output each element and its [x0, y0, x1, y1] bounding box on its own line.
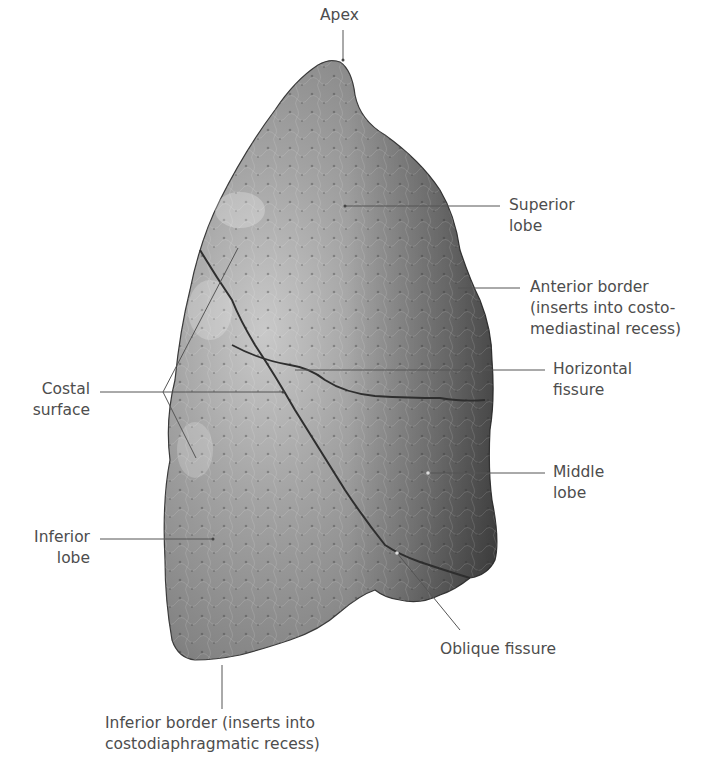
label-inferior-border: Inferior border (inserts into costodiaph… — [105, 713, 320, 755]
label-apex: Apex — [320, 5, 359, 26]
label-horizontal-fissure: Horizontal fissure — [553, 359, 632, 401]
label-oblique-fissure: Oblique fissure — [440, 639, 556, 660]
label-inferior-lobe: Inferior lobe — [20, 527, 90, 569]
label-middle-lobe: Middle lobe — [553, 462, 604, 504]
label-superior-lobe: Superior lobe — [509, 195, 575, 237]
label-anterior-border: Anterior border (inserts into costo- med… — [530, 277, 681, 340]
lung-diagram: Apex Superior lobe Anterior border (inse… — [0, 0, 719, 782]
label-costal-surface: Costal surface — [20, 379, 90, 421]
